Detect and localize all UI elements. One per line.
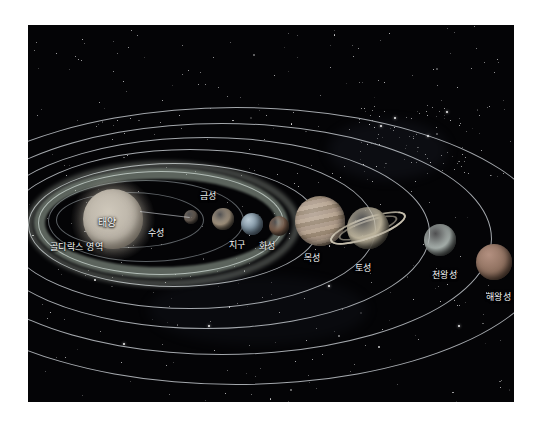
saturn-label: 토성	[355, 261, 372, 274]
star	[485, 343, 486, 344]
star	[484, 62, 485, 63]
star	[372, 110, 373, 111]
star	[427, 105, 428, 106]
star	[472, 128, 473, 129]
star	[198, 84, 199, 85]
star	[477, 109, 479, 111]
star	[498, 62, 499, 63]
star	[200, 72, 201, 73]
earth	[241, 213, 263, 235]
star	[297, 35, 298, 36]
earth-label: 지구	[229, 238, 246, 251]
star	[205, 84, 206, 85]
star	[444, 115, 445, 116]
star	[182, 45, 183, 46]
bright-star	[446, 111, 448, 113]
star	[452, 392, 454, 394]
neptune	[476, 244, 512, 280]
star	[227, 96, 228, 97]
star	[437, 85, 438, 86]
star	[378, 80, 379, 81]
star	[364, 108, 365, 109]
star	[374, 106, 375, 107]
star	[503, 100, 504, 101]
star	[459, 118, 460, 119]
star	[489, 106, 490, 107]
star	[334, 30, 335, 31]
star	[504, 109, 505, 110]
star	[444, 118, 445, 119]
star	[75, 56, 76, 57]
star	[81, 60, 82, 61]
star	[104, 108, 105, 109]
star	[384, 82, 385, 83]
star	[41, 109, 42, 110]
star	[330, 45, 331, 46]
star	[45, 371, 46, 372]
star	[397, 384, 398, 385]
star	[172, 85, 173, 86]
star	[240, 97, 241, 98]
star	[126, 91, 127, 92]
star	[450, 53, 451, 54]
star	[426, 111, 427, 112]
star	[82, 395, 83, 396]
star	[499, 381, 501, 383]
star	[358, 48, 359, 49]
mars	[269, 216, 289, 236]
star	[169, 394, 170, 395]
star	[439, 111, 440, 112]
star	[128, 47, 129, 48]
star	[411, 118, 412, 119]
star	[330, 67, 331, 68]
star	[501, 380, 502, 381]
star	[99, 102, 100, 103]
star	[471, 68, 472, 69]
star	[334, 34, 336, 36]
star	[370, 115, 371, 116]
star	[162, 100, 163, 101]
star	[436, 133, 438, 135]
star	[436, 68, 438, 70]
star	[284, 47, 285, 48]
uranus-label: 천왕성	[432, 268, 457, 281]
star	[419, 113, 420, 114]
star	[459, 125, 460, 126]
star	[457, 87, 458, 88]
venus-label: 금성	[200, 189, 217, 202]
mercury-label: 수성	[148, 226, 165, 239]
mars-label: 화성	[259, 239, 276, 252]
star	[69, 69, 70, 70]
star	[188, 70, 189, 71]
star	[113, 71, 114, 72]
star	[361, 108, 362, 109]
star	[379, 116, 380, 117]
star	[412, 75, 413, 76]
star	[270, 398, 272, 400]
solar-system-diagram: 태양수성금성지구화성목성토성천왕성해왕성 골디락스 영역	[28, 25, 514, 402]
star	[38, 68, 39, 69]
star	[137, 35, 139, 37]
star	[444, 108, 445, 109]
star	[131, 30, 132, 31]
star	[481, 150, 482, 151]
star	[460, 123, 461, 124]
star	[77, 120, 78, 121]
star	[78, 59, 79, 60]
star	[436, 127, 437, 128]
star	[288, 71, 289, 72]
neptune-label: 해왕성	[486, 290, 511, 303]
star	[316, 388, 317, 389]
star	[447, 28, 448, 29]
star	[253, 54, 255, 56]
star	[500, 387, 501, 388]
star	[251, 394, 252, 395]
star	[479, 115, 480, 116]
star	[433, 69, 434, 70]
star	[36, 42, 38, 44]
star	[84, 43, 85, 44]
star	[456, 401, 457, 402]
star	[123, 81, 124, 82]
sun-label: 태양	[98, 214, 117, 229]
star	[225, 393, 227, 395]
